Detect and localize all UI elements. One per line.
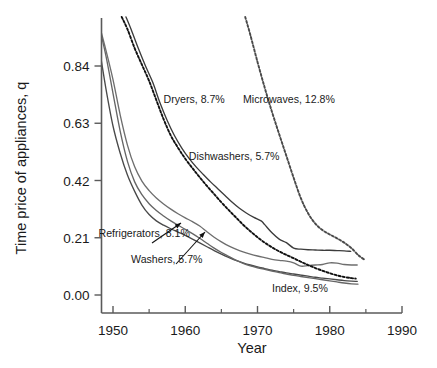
annotation-index: Index, 9.5% xyxy=(272,282,329,294)
x-tick-label-1990: 1990 xyxy=(387,323,417,338)
annotation-washers: Washers, 5.7% xyxy=(131,253,203,265)
x-axis-title: Year xyxy=(237,340,266,356)
y-tick-label-0.00: 0.00 xyxy=(63,288,89,303)
y-tick-label-0.42: 0.42 xyxy=(63,174,89,189)
x-tick-label-1970: 1970 xyxy=(242,323,272,338)
annotation-dryers: Dryers, 8.7% xyxy=(164,93,226,105)
chart-canvas: 195019601970198019900.000.210.420.630.84… xyxy=(0,0,437,368)
x-tick-label-1960: 1960 xyxy=(170,323,200,338)
time-price-of-appliances-chart: 195019601970198019900.000.210.420.630.84… xyxy=(0,0,437,368)
y-tick-label-0.84: 0.84 xyxy=(63,59,90,74)
y-axis-title: Time price of appliances, q xyxy=(13,82,29,255)
annotation-microwaves: Microwaves, 12.8% xyxy=(243,93,335,105)
annotation-dishwashers: Dishwashers, 5.7% xyxy=(189,150,280,162)
y-tick-label-0.21: 0.21 xyxy=(63,231,89,246)
annotation-refrigerators: Refrigerators, 8.1% xyxy=(99,227,191,239)
x-tick-label-1950: 1950 xyxy=(98,323,128,338)
x-tick-label-1980: 1980 xyxy=(315,323,345,338)
y-tick-label-0.63: 0.63 xyxy=(63,116,89,131)
